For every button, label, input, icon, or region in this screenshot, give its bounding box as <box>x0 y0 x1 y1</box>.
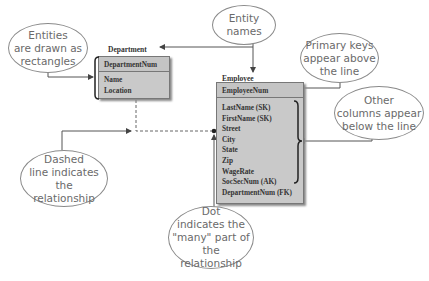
department-column: Name <box>104 75 164 86</box>
employee-column: State <box>222 145 298 156</box>
employee-entity: EmployeeNum LastName (SK) FirstName (SK)… <box>216 82 304 204</box>
relationship-dashed-line <box>136 100 213 131</box>
employee-column: City <box>222 135 298 146</box>
dashed-callout-arrow <box>62 131 131 150</box>
callout-entity-names: Entity names <box>212 5 276 45</box>
callout-dashed-line: Dashed line indicates the relationship <box>20 150 108 207</box>
employee-column: LastName (SK) <box>222 103 298 114</box>
callout-entities: Entities are drawn as rectangles <box>8 23 88 73</box>
employee-column: Zip <box>222 156 298 167</box>
employee-column: Street <box>222 124 298 135</box>
employee-column: WageRate <box>222 167 298 178</box>
callout-other-columns: Other columns appear below the line <box>334 86 424 140</box>
employee-brace-icon <box>293 100 303 184</box>
callout-primary-keys: Primary keys appear above the line <box>300 33 379 83</box>
department-columns: Name Location <box>99 72 169 99</box>
employee-columns: LastName (SK) FirstName (SK) Street City… <box>217 98 303 201</box>
callout-dot: Dot indicates the "many" part of the rel… <box>168 206 254 269</box>
department-column: Location <box>104 86 164 97</box>
employee-column: FirstName (SK) <box>222 114 298 125</box>
employee-primary-key: EmployeeNum <box>217 83 303 98</box>
department-entity: DepartmentNum Name Location <box>98 56 170 99</box>
employee-column: DepartmentNum (FK) <box>222 188 298 199</box>
department-bracket-icon <box>94 56 100 100</box>
department-entity-name: Department <box>108 45 147 54</box>
department-primary-key: DepartmentNum <box>99 57 169 72</box>
employee-column: SocSecNum (AK) <box>222 177 298 188</box>
